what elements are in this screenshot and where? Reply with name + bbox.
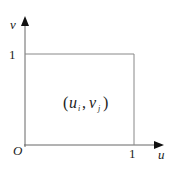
origin-label: O — [13, 143, 23, 158]
cell-label-v-subscript: j — [97, 104, 101, 113]
cell-label-comma: , — [82, 94, 86, 111]
cell-label: ( u i , v j ) — [63, 94, 108, 113]
cell-label-open-paren: ( — [63, 94, 68, 112]
cell-label-u-subscript: i — [78, 104, 80, 113]
x-tick-label: 1 — [129, 146, 136, 161]
cell-label-close-paren: ) — [103, 94, 108, 112]
x-axis-label: u — [158, 147, 165, 162]
y-tick-label: 1 — [9, 47, 16, 62]
y-axis-arrow-icon — [21, 16, 29, 26]
unit-square-diagram: v 1 O 1 u ( u i , v j ) — [0, 0, 174, 172]
y-axis-label: v — [10, 17, 16, 32]
cell-label-v: v — [89, 94, 97, 111]
cell-label-u: u — [69, 94, 77, 111]
